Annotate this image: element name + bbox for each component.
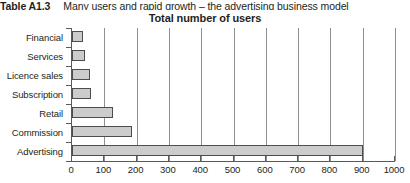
bar-licence-sales[interactable] <box>72 69 90 80</box>
bar-services[interactable] <box>72 50 85 61</box>
y-tick-label: Advertising <box>0 147 63 157</box>
y-tick-label: Subscription <box>0 90 63 100</box>
y-axis-labels: FinancialServicesLicence salesSubscripti… <box>0 28 68 161</box>
y-tick-label: Commission <box>0 128 63 138</box>
x-tick <box>329 156 330 161</box>
y-tick-label: Services <box>0 52 63 62</box>
x-tick <box>136 156 137 161</box>
y-tick-label: Licence sales <box>0 71 63 81</box>
x-tick <box>71 156 72 161</box>
y-tick-label: Financial <box>0 33 63 43</box>
y-tick-label: Retail <box>0 109 63 119</box>
x-tick <box>233 156 234 161</box>
x-tick <box>362 156 363 161</box>
bar-commission[interactable] <box>72 126 132 137</box>
bar-financial[interactable] <box>72 31 83 42</box>
x-tick <box>200 156 201 161</box>
bar-retail[interactable] <box>72 107 113 118</box>
x-tick <box>103 156 104 161</box>
x-tick <box>297 156 298 161</box>
x-tick <box>394 156 395 161</box>
bar-chart: Total number of users FinancialServicesL… <box>0 0 410 183</box>
x-tick <box>168 156 169 161</box>
bar-advertising[interactable] <box>72 145 363 156</box>
x-tick-label: 1000 <box>374 164 410 175</box>
x-axis-line <box>71 161 395 162</box>
bar-subscription[interactable] <box>72 88 91 99</box>
gridline <box>395 28 396 161</box>
x-axis-labels: 01002003004005006007008009001000 <box>71 164 395 178</box>
plot-area <box>71 28 395 161</box>
x-tick <box>265 156 266 161</box>
bars-layer <box>72 28 395 161</box>
x-axis-ticks <box>71 156 395 161</box>
chart-title: Total number of users <box>0 12 410 24</box>
